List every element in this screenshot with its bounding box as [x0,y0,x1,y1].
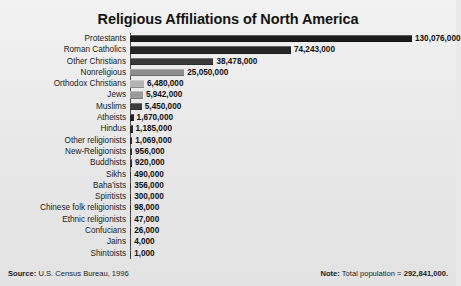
bar-category-label: Shintoists [0,248,130,259]
bar-row: Muslims5,450,000 [0,101,450,112]
bar-category-label: Atheists [0,112,130,123]
bar-row: Baha'ists356,000 [0,180,450,191]
bar [130,91,143,98]
bar-track: 4,000 [130,236,450,247]
bar-value-label: 300,000 [131,191,164,202]
bar-track: 1,000 [130,248,450,259]
bar-row: Jains4,000 [0,236,450,247]
bar-track: 25,050,000 [130,67,450,78]
bar-row: Nonreligious25,050,000 [0,67,450,78]
bar-category-label: Muslims [0,101,130,112]
bar-category-label: Orthodox Christians [0,78,130,89]
bar-category-label: Confucians [0,225,130,236]
bar-track: 130,076,000 [130,33,461,44]
bar-category-label: Spiritists [0,191,130,202]
bar-category-label: Other religionists [0,135,130,146]
bar-chart-plot-area: Protestants130,076,000Roman Catholics74,… [0,31,450,259]
bar-value-label: 47,000 [131,214,159,225]
bar [130,103,142,110]
bar-value-label: 5,942,000 [143,89,182,100]
bar-row: Chinese folk religionists98,000 [0,202,450,213]
bar-value-label: 74,243,000 [291,44,335,55]
bar-value-label: 4,000 [131,236,155,247]
bar-category-label: Jews [0,89,130,100]
bar-category-label: Baha'ists [0,180,130,191]
bar-category-label: Sikhs [0,169,130,180]
bar-track: 5,450,000 [130,101,450,112]
chart-footer: Source: U.S. Census Bureau, 1996 Note: T… [0,269,456,278]
bar-row: Buddhists920,000 [0,157,450,168]
bar-track: 490,000 [130,169,450,180]
bar-value-label: 956,000 [132,146,165,157]
bar-category-label: New-Religionists [0,146,130,157]
bar-row-list: Protestants130,076,000Roman Catholics74,… [0,33,450,259]
bar-value-label: 1,670,000 [134,112,173,123]
bar-value-label: 5,450,000 [142,101,181,112]
bar-row: Sikhs490,000 [0,169,450,180]
bar-category-label: Buddhists [0,157,130,168]
bar-row: Protestants130,076,000 [0,33,450,44]
bar-category-label: Ethnic religionists [0,214,130,225]
bar-track: 1,670,000 [130,112,450,123]
bar-track: 5,942,000 [130,89,450,100]
bar-row: Other Christians38,478,000 [0,56,450,67]
bar-row: Spiritists300,000 [0,191,450,202]
bar-row: Hindus1,185,000 [0,123,450,134]
bar-value-label: 1,000 [131,248,155,259]
note-value: 292,841,000. [404,269,448,278]
bar-row: Atheists1,670,000 [0,112,450,123]
bar-track: 98,000 [130,202,450,213]
bar-row: Other religionists1,069,000 [0,135,450,146]
bar-value-label: 490,000 [131,169,164,180]
bar-value-label: 1,185,000 [133,123,172,134]
bar [130,35,412,42]
bar-category-label: Other Christians [0,56,130,67]
bar-category-label: Protestants [0,33,130,44]
bar-category-label: Roman Catholics [0,44,130,55]
bar [130,46,291,53]
bar [130,69,184,76]
total-population-note: Note: Total population = 292,841,000. [320,269,448,278]
bar-row: Ethnic religionists47,000 [0,214,450,225]
bar-track: 1,069,000 [130,135,450,146]
bar-track: 956,000 [130,146,450,157]
bar-row: Roman Catholics74,243,000 [0,44,450,55]
bar-row: Shintoists1,000 [0,248,450,259]
bar-track: 920,000 [130,157,450,168]
bar [130,80,144,87]
bar-row: Jews5,942,000 [0,89,450,100]
bar-value-label: 130,076,000 [412,33,461,44]
bar-track: 38,478,000 [130,56,450,67]
bar-value-label: 920,000 [132,157,165,168]
bar-track: 1,185,000 [130,123,450,134]
source-label: Source: [8,269,36,278]
bar-value-label: 356,000 [131,180,164,191]
bar-row: Confucians26,000 [0,225,450,236]
bar-value-label: 1,069,000 [132,135,171,146]
bar-row: Orthodox Christians6,480,000 [0,78,450,89]
bar-value-label: 26,000 [131,225,159,236]
chart-title: Religious Affiliations of North America [0,0,456,31]
bar-category-label: Nonreligious [0,67,130,78]
bar-value-label: 38,478,000 [213,56,257,67]
note-label: Note: [320,269,339,278]
bar-track: 356,000 [130,180,450,191]
bar-track: 26,000 [130,225,450,236]
bar [130,58,213,65]
bar-track: 74,243,000 [130,44,450,55]
bar-value-label: 6,480,000 [144,78,183,89]
bar-value-label: 98,000 [131,202,159,213]
bar-track: 6,480,000 [130,78,450,89]
bar-category-label: Chinese folk religionists [0,202,130,213]
bar-track: 47,000 [130,214,450,225]
source-text: U.S. Census Bureau, 1996 [38,269,128,278]
source-note: Source: U.S. Census Bureau, 1996 [8,269,129,278]
bar-category-label: Jains [0,236,130,247]
bar-category-label: Hindus [0,123,130,134]
bar-track: 300,000 [130,191,450,202]
bar-row: New-Religionists956,000 [0,146,450,157]
note-text: Total population = [342,269,404,278]
bar-value-label: 25,050,000 [184,67,228,78]
